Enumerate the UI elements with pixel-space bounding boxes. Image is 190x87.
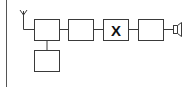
speaker-icon: [174, 23, 182, 37]
block-2: [69, 20, 94, 41]
block-1: [35, 20, 60, 41]
block-5: [35, 51, 60, 72]
block-diagram: X: [0, 0, 190, 87]
block-4: [139, 20, 164, 41]
block-3-label: X: [111, 22, 121, 39]
antenna-icon: [20, 10, 34, 30]
